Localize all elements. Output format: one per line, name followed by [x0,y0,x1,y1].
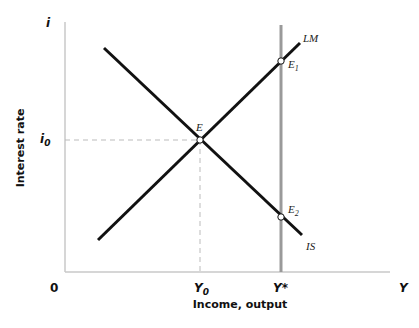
y0-tick-label: Y0 [194,281,209,297]
ystar-tick-label: Y* [273,281,289,295]
y-axis-title: Interest rate [14,109,27,188]
is-label: IS [305,240,316,252]
i0-tick-label: i0 [40,132,50,148]
point-e2 [278,214,284,220]
lm-label: LM [302,32,319,44]
point-e1 [278,58,284,64]
y-axis-symbol: i [46,16,51,30]
e2-label: E2 [287,203,299,218]
x-axis-symbol: Y [399,281,409,295]
point-e [197,137,203,143]
e-label: E [195,121,203,133]
origin-label: 0 [50,281,58,295]
e1-label: E1 [287,58,299,73]
x-axis-title: Income, output [193,298,288,311]
is-lm-diagram: LM IS E E1 E2 i i0 0 Y0 Y* Y Income, out… [0,0,419,328]
